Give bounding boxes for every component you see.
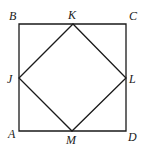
label-b: B	[9, 9, 17, 23]
label-m: M	[65, 133, 77, 147]
label-j: J	[7, 72, 13, 86]
outer-square-abcd	[19, 24, 126, 131]
label-c: C	[129, 9, 138, 23]
label-a: A	[7, 127, 16, 141]
label-k: K	[67, 8, 77, 22]
inner-square-jklm	[19, 24, 126, 131]
label-d: D	[127, 130, 137, 144]
label-l: L	[128, 72, 136, 86]
geometry-diagram: B K C J L A M D	[0, 0, 146, 148]
